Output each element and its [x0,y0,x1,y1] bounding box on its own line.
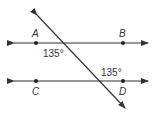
point-d [121,79,125,83]
angle-label-2: 135° [101,67,122,78]
label-a: A [31,28,39,39]
transversal-line [37,15,125,108]
point-a [34,41,38,45]
point-c [34,79,38,83]
point-b [121,41,125,45]
diagram-canvas: A B C D 135° 135° [0,0,152,119]
label-c: C [32,86,40,97]
angle-label-1: 135° [43,48,64,59]
label-d: D [119,86,126,97]
label-b: B [119,28,126,39]
